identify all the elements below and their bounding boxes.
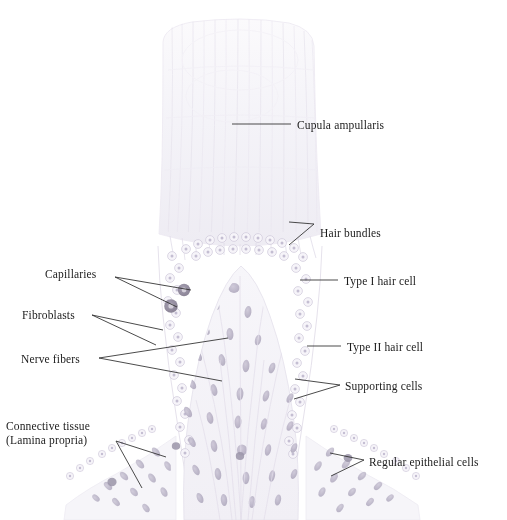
label-hair-bundles: Hair bundles [320,227,381,241]
label-connective-tissue-line1: Connective tissue [6,420,90,432]
label-capillaries: Capillaries [45,268,96,282]
label-connective-tissue: Connective tissue (Lamina propria) [6,420,156,447]
label-type-ii-hair-cell: Type II hair cell [347,341,423,355]
label-cupula-ampullaris: Cupula ampullaris [297,119,384,133]
label-regular-epithelial-cells: Regular epithelial cells [369,456,479,470]
leader-fibroblasts [92,315,163,345]
leader-supporting-cells [294,379,340,399]
label-fibroblasts: Fibroblasts [22,309,75,323]
label-supporting-cells: Supporting cells [345,380,422,394]
crista-ampullaris-figure: Cupula ampullaris Hair bundles Type I ha… [0,0,507,520]
label-type-i-hair-cell: Type I hair cell [344,275,416,289]
label-connective-tissue-line2: (Lamina propria) [6,434,87,446]
label-nerve-fibers: Nerve fibers [21,353,80,367]
cupula-ampullaris-structure [159,19,321,246]
